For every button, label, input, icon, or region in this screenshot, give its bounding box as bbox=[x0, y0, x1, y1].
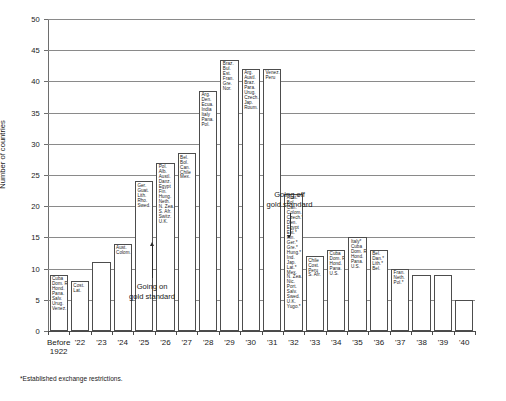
y-tick-label-20: 20 bbox=[16, 202, 40, 211]
y-tick-mark-25 bbox=[44, 175, 48, 176]
x-tick-mark-11 bbox=[283, 331, 284, 335]
bar-22: Cost.Lat. bbox=[71, 281, 89, 331]
country-label: Mex. bbox=[180, 175, 195, 180]
annotation-going-off-arrow-shaft bbox=[290, 213, 291, 235]
x-tick-mark-end bbox=[475, 331, 476, 335]
country-label: U.K. bbox=[159, 220, 174, 225]
y-tick-mark-15 bbox=[44, 237, 48, 238]
x-tick-mark-14 bbox=[347, 331, 348, 335]
x-tick-label-19: '40 bbox=[443, 338, 485, 347]
country-label: Venez. bbox=[52, 307, 67, 312]
bar-37: Fran.Neth.Pol.* bbox=[391, 269, 409, 331]
arrow-down-icon bbox=[287, 235, 291, 239]
x-tick-mark-19 bbox=[454, 331, 455, 335]
bar-country-labels: ChileCost.PeruS. Afr. bbox=[307, 257, 323, 278]
annotation-going-off-line1: Going off bbox=[242, 190, 338, 200]
y-tick-mark-10 bbox=[44, 269, 48, 270]
y-tick-label-5: 5 bbox=[16, 296, 40, 305]
bar-35: Italy*CubaDom. R.Hond.Pana.U.S. bbox=[348, 237, 366, 331]
x-tick-mark-4 bbox=[133, 331, 134, 335]
x-tick-mark-2 bbox=[91, 331, 92, 335]
gridline-30 bbox=[48, 144, 475, 145]
bar-32: Aust.*Bol.Can.Colom.Czech.*Den.EgyptEst.… bbox=[284, 194, 302, 331]
y-tick-label-25: 25 bbox=[16, 171, 40, 180]
y-tick-label-35: 35 bbox=[16, 109, 40, 118]
bar-country-labels: Italy*CubaDom. R.Hond.Pana.U.S. bbox=[349, 238, 365, 269]
x-tick-mark-12 bbox=[304, 331, 305, 335]
x-tick-mark-13 bbox=[326, 331, 327, 335]
bar-country-labels: Venez.Peru bbox=[264, 70, 280, 81]
y-tick-label-40: 40 bbox=[16, 77, 40, 86]
bar-36: Bel.Dan.*Lith.*Bel. bbox=[370, 250, 388, 331]
footnote: *Established exchange restrictions. bbox=[20, 375, 123, 382]
bar-country-labels: Aust.*Bol.Can.Colom.Czech.*Den.EgyptEst.… bbox=[285, 195, 301, 310]
bar-country-labels: Ger.Guat.Lith.Rho.Swed. bbox=[136, 182, 152, 208]
y-tick-mark-35 bbox=[44, 113, 48, 114]
bar-country-labels: Cost.Lat. bbox=[72, 282, 88, 293]
y-tick-label-10: 10 bbox=[16, 265, 40, 274]
arrow-up-icon bbox=[150, 242, 154, 246]
country-label: Yugo.* bbox=[287, 305, 302, 310]
bar-country-labels: CubaDom. R.Hond.Pana.Salv.Urug.Venez. bbox=[51, 276, 67, 312]
annotation-going-off-gold-standard: Going off gold standard bbox=[242, 190, 338, 209]
bar-country-labels: CubaDom. R.Hond.Pana.U.S. bbox=[328, 251, 344, 277]
bar-38 bbox=[412, 275, 430, 331]
country-label: Bel. bbox=[372, 267, 387, 272]
x-tick-mark-5 bbox=[155, 331, 156, 335]
y-axis-title: Number of countries bbox=[0, 25, 7, 285]
y-tick-mark-20 bbox=[44, 206, 48, 207]
gridline-10 bbox=[48, 269, 475, 270]
x-tick-mark-8 bbox=[219, 331, 220, 335]
bar-country-labels: Braz.Bul.Est.Fran.Gre.Nor. bbox=[221, 61, 237, 92]
bar-28: Arg.Den.Ecua.IndiaItalyPana.Pol. bbox=[199, 91, 217, 331]
gridline-40 bbox=[48, 81, 475, 82]
bar-25: Ger.Guat.Lith.Rho.Swed. bbox=[135, 181, 153, 331]
bar-country-labels: Bel.Dan.*Lith.*Bel. bbox=[371, 251, 387, 272]
country-label: Roum. bbox=[244, 106, 259, 111]
country-label: Colom. bbox=[116, 251, 131, 256]
gold-standard-bar-chart: Number of countries 50454035302520151050… bbox=[0, 0, 506, 401]
bar-Before1922: CubaDom. R.Hond.Pana.Salv.Urug.Venez. bbox=[50, 275, 68, 331]
country-label: U.S. bbox=[351, 265, 366, 270]
country-label: Pol.* bbox=[394, 281, 409, 286]
y-tick-label-15: 15 bbox=[16, 233, 40, 242]
annotation-going-on-line1: Going on bbox=[107, 282, 197, 292]
gridline-35 bbox=[48, 113, 475, 114]
x-tick-mark-17 bbox=[411, 331, 412, 335]
x-tick-mark-9 bbox=[240, 331, 241, 335]
x-tick-mark-0 bbox=[48, 331, 49, 335]
bar-39 bbox=[434, 275, 452, 331]
bar-33: ChileCost.PeruS. Afr. bbox=[306, 256, 324, 331]
annotation-going-off-line2: gold standard bbox=[242, 200, 338, 210]
y-tick-mark-50 bbox=[44, 19, 48, 20]
bar-27: Bel.Bol.Can.ChileMex. bbox=[178, 153, 196, 331]
x-tick-mark-6 bbox=[176, 331, 177, 335]
x-tick-mark-15 bbox=[368, 331, 369, 335]
annotation-going-on-gold-standard: Going on gold standard bbox=[107, 282, 197, 301]
y-tick-mark-45 bbox=[44, 50, 48, 51]
gridline-50 bbox=[48, 19, 475, 20]
annotation-going-on-arrow-shaft bbox=[152, 246, 153, 278]
bar-country-labels: Pol.Alb.Austl.Danz.EgyptFin.Hung.Neth.N.… bbox=[157, 164, 173, 225]
x-tick-mark-1 bbox=[69, 331, 70, 335]
bar-34: CubaDom. R.Hond.Pana.U.S. bbox=[327, 250, 345, 331]
y-tick-label-50: 50 bbox=[16, 15, 40, 24]
y-tick-label-45: 45 bbox=[16, 46, 40, 55]
country-label: Peru bbox=[266, 76, 281, 81]
bar-country-labels: Fran.Neth.Pol.* bbox=[392, 270, 408, 286]
country-label: Pol. bbox=[201, 123, 216, 128]
bar-country-labels: Arg.Austl.Braz.Para.Urug.Czech.Jap.Roum. bbox=[243, 70, 259, 111]
x-tick-mark-10 bbox=[262, 331, 263, 335]
x-tick-mark-16 bbox=[390, 331, 391, 335]
x-tick-mark-18 bbox=[432, 331, 433, 335]
bar-26: Pol.Alb.Austl.Danz.EgyptFin.Hung.Neth.N.… bbox=[156, 163, 174, 331]
gridline-45 bbox=[48, 50, 475, 51]
bar-29: Braz.Bul.Est.Fran.Gre.Nor. bbox=[220, 60, 238, 331]
bar-40 bbox=[455, 300, 473, 331]
y-tick-label-30: 30 bbox=[16, 140, 40, 149]
y-tick-label-0: 0 bbox=[16, 327, 40, 336]
bar-country-labels: Aust.Colom. bbox=[115, 245, 131, 256]
y-tick-mark-5 bbox=[44, 300, 48, 301]
bar-country-labels: Arg.Den.Ecua.IndiaItalyPana.Pol. bbox=[200, 92, 216, 128]
country-label: S. Afr. bbox=[308, 273, 323, 278]
